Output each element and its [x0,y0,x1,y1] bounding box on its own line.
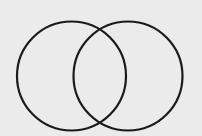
venn-svg [0,0,202,136]
circle-right [74,22,183,131]
venn-diagram [0,0,202,136]
circle-left [17,22,126,131]
